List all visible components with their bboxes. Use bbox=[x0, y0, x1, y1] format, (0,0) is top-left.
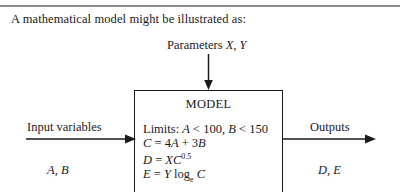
limits-bound-b: < 150 bbox=[239, 122, 268, 136]
equation-c-plus: + 3 bbox=[182, 136, 198, 150]
top-horizontal-rule bbox=[0, 5, 400, 7]
equation-limits: Limits: A < 100, B < 150 bbox=[143, 123, 268, 137]
equation-e-log: log bbox=[174, 167, 190, 181]
output-right-arrow-icon bbox=[282, 132, 376, 146]
equation-e: E = Y loge C bbox=[143, 168, 268, 186]
model-box: MODEL Limits: A < 100, B < 150 C = 4A + … bbox=[134, 90, 283, 192]
output-variables: D, E bbox=[318, 163, 341, 178]
limits-variable-a: A bbox=[182, 122, 190, 136]
input-variables: A, B bbox=[47, 163, 69, 178]
equation-e-var-c: C bbox=[197, 167, 205, 181]
equation-c-lhs: C bbox=[143, 136, 151, 150]
input-right-arrow-icon bbox=[26, 132, 136, 146]
limits-bound-a: < 100, bbox=[193, 122, 225, 136]
equation-d-eq: = bbox=[155, 153, 162, 167]
equation-e-lhs: E bbox=[143, 167, 151, 181]
limits-variable-b: B bbox=[228, 122, 236, 136]
equation-d-exponent: 0.5 bbox=[181, 152, 191, 161]
equation-d-lhs: D bbox=[143, 153, 152, 167]
equation-d: D = XC0.5 bbox=[143, 150, 268, 168]
equation-e-var-y: Y bbox=[164, 167, 171, 181]
equation-e-log-base: e bbox=[190, 174, 194, 183]
equation-c-var-a: A bbox=[171, 136, 179, 150]
equation-c-var-b: B bbox=[198, 136, 206, 150]
figure-canvas: A mathematical model might be illustrate… bbox=[0, 0, 415, 192]
equation-c-eq: = 4 bbox=[154, 136, 170, 150]
model-equations: Limits: A < 100, B < 150 C = 4A + 3B D =… bbox=[143, 123, 268, 186]
equation-d-var-x: X bbox=[165, 153, 173, 167]
parameters-label: Parameters X, Y bbox=[167, 38, 247, 53]
limits-prefix: Limits: bbox=[143, 122, 179, 136]
equation-e-eq: = bbox=[154, 167, 161, 181]
parameters-down-arrow-icon bbox=[200, 54, 217, 90]
model-box-title: MODEL bbox=[135, 97, 282, 112]
intro-text: A mathematical model might be illustrate… bbox=[11, 12, 246, 27]
equation-c: C = 4A + 3B bbox=[143, 137, 268, 151]
parameters-variables: X, Y bbox=[226, 38, 247, 52]
parameters-label-text: Parameters bbox=[167, 38, 223, 52]
